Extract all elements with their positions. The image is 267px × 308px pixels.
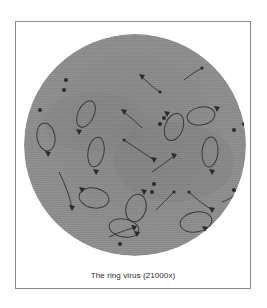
particle-dot [26, 180, 30, 184]
particle-dot [62, 88, 66, 92]
particle-dot [40, 212, 44, 216]
virus-head [213, 229, 219, 235]
particle-dot [232, 128, 236, 132]
figure-caption: The ring virus (21000x) [15, 271, 251, 280]
virus-head [235, 191, 241, 197]
particle-dot [118, 242, 122, 246]
particle-dot [158, 122, 162, 126]
particle-dot [162, 116, 166, 120]
particle-dot [150, 190, 154, 194]
particle-dot [64, 78, 68, 82]
particle-dot [38, 108, 42, 112]
particle-dot [152, 182, 156, 186]
particle-dot [72, 248, 76, 252]
particle-dot [242, 122, 246, 126]
micrograph-image [24, 32, 246, 258]
particle-dot [232, 188, 236, 192]
ring-virus [202, 229, 222, 255]
